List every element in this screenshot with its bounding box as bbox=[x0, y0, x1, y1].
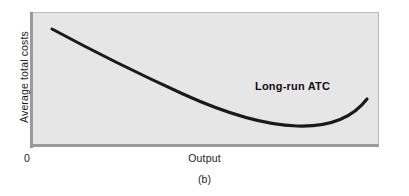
figure-panel-b: Long-run ATC Average total costs 0 Outpu… bbox=[0, 0, 409, 196]
y-axis-label: Average total costs bbox=[18, 12, 30, 142]
long-run-atc-path bbox=[52, 29, 367, 126]
long-run-atc-curve bbox=[31, 12, 379, 146]
x-axis-label: Output bbox=[0, 152, 409, 164]
curve-annotation-long-run-atc: Long-run ATC bbox=[255, 80, 330, 92]
panel-caption: (b) bbox=[0, 173, 409, 185]
